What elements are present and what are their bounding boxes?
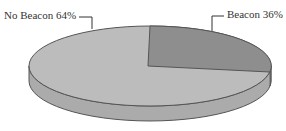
slice-beacon (148, 26, 271, 72)
leader-line-beacon (212, 16, 224, 31)
label-no-beacon: No Beacon 64% (4, 9, 76, 21)
leader-line-no-beacon (79, 17, 92, 29)
label-beacon: Beacon 36% (227, 8, 283, 20)
